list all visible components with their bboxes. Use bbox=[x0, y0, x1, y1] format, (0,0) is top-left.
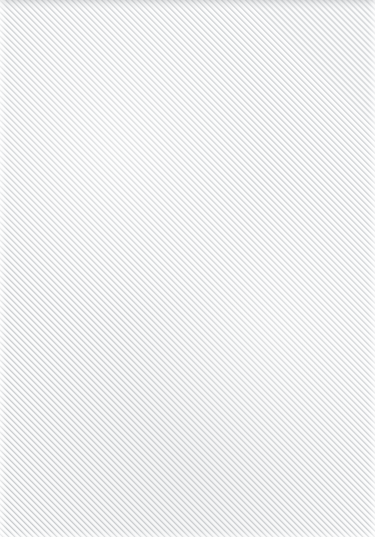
diagonal-stripe-pattern bbox=[0, 0, 375, 537]
stripe-placeholder-canvas bbox=[0, 0, 375, 537]
